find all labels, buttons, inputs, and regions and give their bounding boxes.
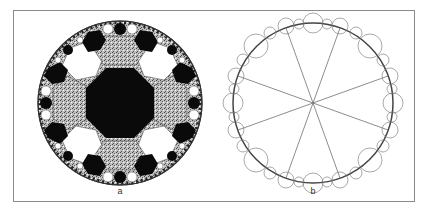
panel-a-tiling xyxy=(38,21,202,185)
panel-b-lines xyxy=(223,13,403,193)
figure-canvas xyxy=(0,0,424,214)
panel-b-label: b xyxy=(303,186,323,196)
center-octagon xyxy=(86,68,154,138)
panel-a-label: a xyxy=(110,186,130,196)
